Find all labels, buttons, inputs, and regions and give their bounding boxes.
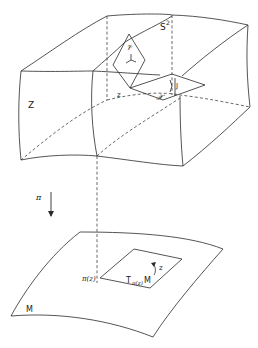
hidden-back-bottom-edge	[107, 93, 250, 107]
bottom-front-right-edge	[97, 156, 183, 166]
pi-arrow-head-icon	[48, 211, 54, 217]
mid-vertical-edge	[92, 71, 97, 156]
bottom-front-left-edge	[21, 155, 97, 160]
rotation-arrow-head-icon	[151, 262, 156, 267]
twistor-fibration-diagram: Z S 2 z 𝒱 𝒳 J π M π(z) T π(z) M z	[0, 0, 258, 348]
label-M: M	[26, 305, 33, 314]
label-pi-z: π(z)	[81, 275, 96, 283]
right-front-vertical-edge	[180, 96, 183, 166]
bottom-right-edge	[183, 107, 250, 166]
surface-right-edge	[153, 249, 223, 337]
surface-left-edge	[11, 232, 80, 316]
top-right-curve	[182, 25, 248, 76]
surface-front-edge	[11, 315, 153, 337]
label-tangent-subscript: π(z)	[131, 280, 143, 286]
label-S-superscript: 2	[166, 19, 170, 26]
top-back-edge	[107, 14, 248, 25]
top-left-edge	[21, 16, 107, 71]
label-J: J	[175, 82, 178, 90]
horizontal-plane-H	[130, 74, 205, 100]
left-vertical-edge	[19, 71, 21, 160]
surface-back-edge	[80, 232, 223, 249]
label-V: 𝒱	[126, 43, 136, 52]
label-Z: Z	[28, 100, 34, 110]
twistor-space-box	[19, 14, 250, 166]
top-front-edge-right	[93, 71, 160, 75]
label-pi: π	[35, 193, 42, 202]
label-H: 𝒳	[156, 93, 166, 102]
base-manifold-M	[11, 232, 223, 337]
label-z-rotation: z	[159, 264, 163, 272]
label-tangent-M: M	[144, 276, 151, 285]
label-tangent-T: T	[125, 276, 131, 285]
J-vertical-arrow	[126, 54, 136, 63]
projection	[48, 156, 97, 283]
hidden-mid-bottom-diagonal	[97, 98, 180, 156]
label-z-point: z	[117, 91, 121, 99]
right-back-vertical-edge	[247, 25, 250, 107]
